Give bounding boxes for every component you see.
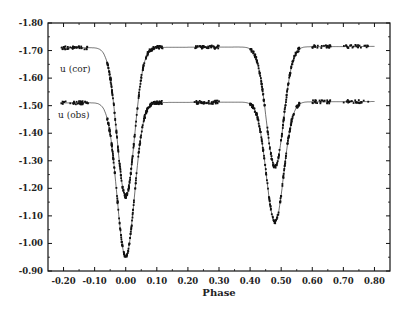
y-axis-ticks: -1.80-1.70-1.60-1.50-1.40-1.30-1.20-1.10…: [19, 18, 390, 276]
x-tick-label: -0.10: [83, 276, 107, 286]
model-curves: [60, 46, 374, 257]
y-tick-label: -1.20: [19, 183, 43, 193]
y-tick-label: -1.00: [19, 238, 43, 248]
x-axis-title: Phase: [202, 287, 235, 298]
y-tick-label: -1.30: [19, 156, 43, 166]
plot-frame: [48, 23, 390, 271]
x-tick-label: 0.50: [271, 276, 292, 286]
x-tick-label: 0.80: [364, 276, 385, 286]
y-tick-label: -1.40: [19, 128, 43, 138]
x-tick-label: 0.70: [333, 276, 354, 286]
series-label-cor: u (cor): [60, 64, 90, 74]
x-axis-ticks: -0.20-0.100.000.100.200.300.400.500.600.…: [51, 23, 384, 286]
y-tick-label: -1.70: [19, 46, 43, 56]
series-label-obs: u (obs): [58, 110, 89, 120]
data-points: [61, 44, 370, 258]
y-tick-label: -1.80: [19, 18, 43, 28]
x-tick-label: 0.40: [240, 276, 261, 286]
x-tick-label: 0.00: [115, 276, 136, 286]
x-tick-label: 0.20: [178, 276, 199, 286]
x-tick-label: 0.30: [209, 276, 230, 286]
y-tick-label: -1.60: [19, 73, 43, 83]
y-tick-label: -1.50: [19, 101, 43, 111]
x-tick-label: 0.60: [302, 276, 323, 286]
y-tick-label: -1.10: [19, 211, 43, 221]
x-tick-label: -0.20: [51, 276, 75, 286]
x-tick-label: 0.10: [146, 276, 167, 286]
light-curve-chart: -1.80-1.70-1.60-1.50-1.40-1.30-1.20-1.10…: [0, 0, 407, 309]
y-tick-label: -0.90: [19, 266, 43, 276]
